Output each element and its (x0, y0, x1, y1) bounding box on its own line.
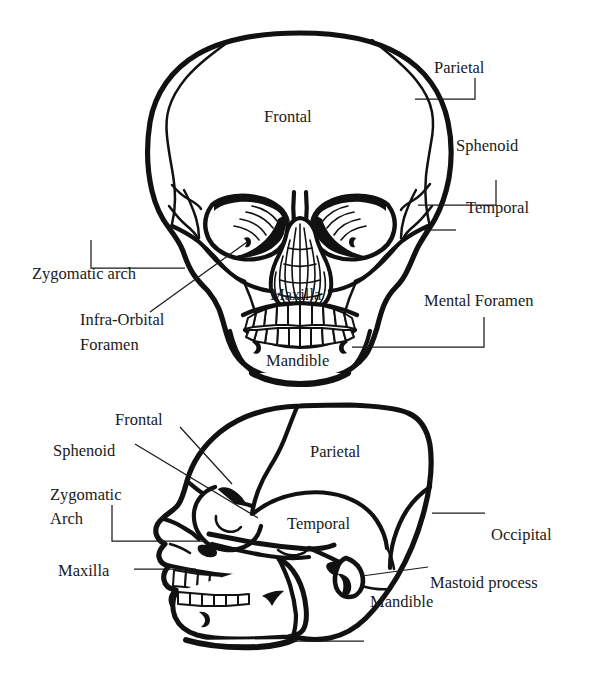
anterior-label-zygomatic-arch: Zygomatic arch (32, 264, 137, 283)
lateral-label-frontal: Frontal (115, 410, 163, 429)
lateral-label-parietal: Parietal (310, 442, 361, 461)
anterior-upper-teeth (243, 303, 357, 329)
lateral-label-mastoid-process: Mastoid process (430, 573, 538, 592)
anterior-label-mental-foramen: Mental Foramen (424, 291, 534, 310)
anterior-label-sphenoid: Sphenoid (456, 136, 519, 155)
lateral-lower-teeth (178, 592, 249, 606)
lateral-skull-view: Frontal Sphenoid Zygomatic Arch Maxilla … (50, 405, 552, 647)
anterior-label-infraorbital-foramen-line1: Infra-Orbital (80, 310, 165, 329)
anterior-mandible-chin (252, 373, 348, 384)
lateral-label-occipital: Occipital (491, 525, 552, 544)
skull-diagram: Parietal Sphenoid Temporal Frontal Zygom… (0, 0, 600, 681)
anterior-label-infraorbital-foramen-line2: Foramen (80, 335, 139, 354)
lateral-label-maxilla: Maxilla (58, 561, 110, 580)
lateral-mandible-inferior-border (186, 639, 295, 647)
skull-diagram-svg: Parietal Sphenoid Temporal Frontal Zygom… (0, 0, 600, 681)
lateral-label-mandible: Mandible (370, 592, 433, 611)
lateral-label-temporal: Temporal (287, 514, 350, 533)
anterior-label-mandible: Mandible (266, 351, 329, 370)
lateral-label-zygomatic-line1: Zygomatic (50, 485, 121, 504)
anterior-label-maxilla: Maxilla (270, 285, 322, 304)
lateral-label-zygomatic-line2: Arch (50, 509, 84, 528)
lateral-label-sphenoid: Sphenoid (53, 441, 116, 460)
anterior-label-temporal: Temporal (466, 198, 529, 217)
anterior-skull-view: Parietal Sphenoid Temporal Frontal Zygom… (32, 33, 534, 385)
anterior-label-parietal: Parietal (434, 58, 485, 77)
anterior-label-frontal: Frontal (264, 107, 312, 126)
